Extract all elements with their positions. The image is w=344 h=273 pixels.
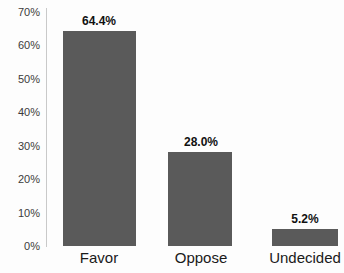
bar-value-label: 5.2% <box>266 213 344 225</box>
plot-area: 64.4% Favor 28.0% Oppose 5.2% Undecided <box>47 0 344 273</box>
bar-favor[interactable] <box>63 31 136 246</box>
y-axis-tick-label: 0% <box>0 241 40 252</box>
bar-chart: 70% 60% 50% 40% 30% 20% 10% 0% 64.4% Fav… <box>0 0 344 273</box>
bar-undecided[interactable] <box>272 229 338 246</box>
bar-group-oppose: 28.0% Oppose <box>163 0 239 273</box>
y-axis-tick-label: 10% <box>0 208 40 219</box>
y-axis-tick-label: 50% <box>0 74 40 85</box>
x-axis-category-label-undecided: Undecided <box>266 249 344 266</box>
y-axis-tick-label: 40% <box>0 107 40 118</box>
bar-group-undecided: 5.2% Undecided <box>266 0 344 273</box>
x-axis-category-label-oppose: Oppose <box>163 249 239 266</box>
y-axis-tick-label: 30% <box>0 141 40 152</box>
y-axis-tick-label: 60% <box>0 40 40 51</box>
y-axis-tick-label: 20% <box>0 174 40 185</box>
x-axis-category-label-favor: Favor <box>61 249 137 266</box>
bar-value-label: 64.4% <box>61 15 137 27</box>
bar-oppose[interactable] <box>168 152 232 246</box>
y-axis-tick-label: 70% <box>0 7 40 18</box>
bar-value-label: 28.0% <box>163 136 239 148</box>
bar-group-favor: 64.4% Favor <box>61 0 137 273</box>
